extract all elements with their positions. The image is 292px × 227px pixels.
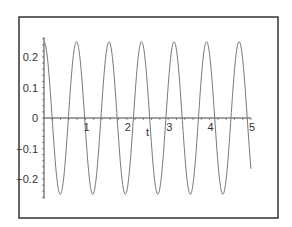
x-tick-label: 4 bbox=[208, 121, 214, 133]
x-tick-label: 2 bbox=[125, 121, 131, 133]
y-tick-label: 0.2 bbox=[23, 51, 38, 63]
x-tick-label: 5 bbox=[249, 121, 255, 133]
plot-canvas: 123450.20.10−0.1−0.2 t bbox=[0, 0, 292, 227]
x-tick-label: 3 bbox=[166, 121, 172, 133]
x-tick-label: 1 bbox=[83, 121, 89, 133]
y-tick-label: 0.1 bbox=[23, 82, 38, 94]
y-tick-label: −0.1 bbox=[16, 143, 38, 155]
y-tick-label: 0 bbox=[32, 112, 38, 124]
y-tick-label: −0.2 bbox=[16, 173, 38, 185]
x-axis-label: t bbox=[146, 126, 149, 138]
